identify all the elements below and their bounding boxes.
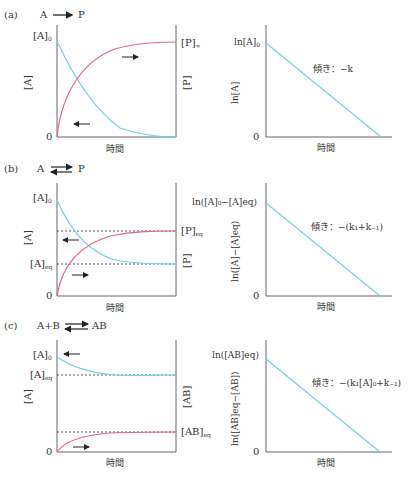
panel-label-a: (a) (4, 9, 18, 20)
x-axis-title: 時間 (317, 302, 335, 312)
log-plot-b: ln([A]₀−[A]eq) 傾き：−(k₁+k₋₁) 0 ln([A]−[A]… (192, 183, 392, 312)
ln-A-line (266, 43, 381, 137)
origin-label: 0 (46, 446, 52, 457)
reaction-product-c: AB (91, 320, 107, 331)
x-axis-title: 時間 (317, 458, 335, 468)
x-axis-title: 時間 (317, 143, 335, 153)
y-axis-title: ln([A]−[A]eq) (230, 221, 240, 282)
y-right-axis-title: [P] (181, 75, 192, 90)
y-right-axis-title: [AB] (181, 386, 192, 408)
ln-A-line (266, 203, 380, 296)
y-eq-left-label: [A]eq (30, 369, 53, 382)
reaction-product-b: P (78, 163, 85, 174)
x-axis-title: 時間 (106, 144, 124, 154)
y-axis-title: ln[A] (230, 82, 240, 104)
x-axis-title: 時間 (106, 303, 124, 313)
y-right-axis-title: [P] (181, 253, 192, 268)
reaction-reactant-b: A (36, 163, 45, 174)
y-left-axis-title: [A] (22, 389, 33, 404)
y-eq-right-label: [AB]eq (181, 426, 211, 439)
panel-b: (b) A P [A]0 [A]eq [P]eq 0 [A] [P] 時間 (4, 163, 392, 313)
y-top-left-label: [A]0 (33, 30, 52, 42)
origin-label: 0 (46, 290, 52, 301)
kinetics-figure: (a) A P [A]0 [P]∞ 0 [A] [P] 時間 ln[A]0 傾き… (0, 0, 412, 479)
reaction-reactant-c: A+B (36, 320, 60, 331)
y-intercept-label: ln[A]0 (234, 37, 260, 48)
ln-AB-line (266, 359, 380, 452)
slope-label: 傾き：−k (313, 63, 354, 74)
reactant-A-curve (57, 200, 176, 264)
product-P-curve (57, 42, 176, 137)
panel-label-b: (b) (4, 163, 18, 174)
reaction-product-a: P (78, 9, 85, 20)
log-plot-c: ln([AB]eq) 傾き：−(k₁[A]₀+k₋₁) 0 ln([AB]eq−… (212, 340, 401, 468)
reactant-A-curve (57, 41, 176, 137)
panel-a: (a) A P [A]0 [P]∞ 0 [A] [P] 時間 ln[A]0 傾き… (4, 9, 392, 154)
log-plot-a: ln[A]0 傾き：−k 0 ln[A] 時間 (230, 25, 392, 153)
concentration-plot-a: [A]0 [P]∞ 0 [A] [P] 時間 (22, 25, 201, 154)
y-top-right-label: [P]∞ (181, 37, 201, 49)
origin-label: 0 (46, 131, 52, 142)
concentration-plot-b: [A]0 [A]eq [P]eq 0 [A] [P] 時間 (22, 183, 203, 313)
origin-label: 0 (253, 131, 259, 142)
concentration-plot-c: [A]0 [A]eq [AB]eq 0 [A] [AB] 時間 (22, 340, 211, 468)
y-left-axis-title: [A] (22, 75, 33, 90)
y-eq-right-label: [P]eq (181, 225, 203, 238)
panel-c: (c) A+B AB [A]0 [A]eq [AB]eq 0 [A] [AB] … (4, 320, 401, 468)
reaction-reactant-a: A (39, 9, 48, 20)
slope-label: 傾き：−(k₁[A]₀+k₋₁) (312, 377, 401, 388)
y-left-axis-title: [A] (22, 230, 33, 245)
y-top-left-label: [A]0 (33, 192, 52, 204)
y-eq-left-label: [A]eq (30, 258, 53, 271)
x-axis-title: 時間 (106, 458, 124, 468)
panel-label-c: (c) (4, 320, 18, 331)
reactant-A-curve (57, 357, 176, 375)
y-intercept-label: ln([AB]eq) (212, 350, 259, 360)
origin-label: 0 (253, 290, 259, 301)
y-axis-title: ln([AB]eq−[AB]) (230, 371, 240, 446)
slope-label: 傾き：−(k₁+k₋₁) (311, 221, 383, 232)
origin-label: 0 (253, 446, 259, 457)
y-top-left-label: [A]0 (33, 349, 52, 361)
product-AB-curve (57, 432, 176, 452)
y-intercept-label: ln([A]₀−[A]eq) (192, 197, 257, 207)
